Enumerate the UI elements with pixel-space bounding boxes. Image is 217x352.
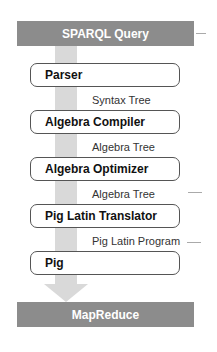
stage-parser: Parser	[30, 63, 180, 87]
stage-algebra-compiler: Algebra Compiler	[30, 110, 180, 134]
edge-label: Syntax Tree	[92, 94, 151, 106]
connector-line	[188, 192, 202, 193]
input-bar: SPARQL Query	[17, 21, 194, 46]
stage-pig-latin-translator: Pig Latin Translator	[30, 204, 180, 228]
input-label: SPARQL Query	[62, 27, 149, 41]
stage-pig: Pig	[30, 251, 180, 275]
connector-line	[196, 33, 206, 34]
edge-label: Algebra Tree	[92, 188, 155, 200]
connector-line	[187, 242, 201, 243]
flow-arrow-head-icon	[44, 284, 88, 302]
stage-label: Algebra Optimizer	[45, 162, 148, 176]
output-label: MapReduce	[72, 308, 139, 322]
stage-label: Parser	[45, 68, 82, 82]
stage-label: Pig Latin Translator	[45, 209, 157, 223]
edge-label: Pig Latin Program	[92, 235, 180, 247]
output-bar: MapReduce	[17, 302, 194, 327]
stage-label: Algebra Compiler	[45, 115, 145, 129]
stage-label: Pig	[45, 256, 64, 270]
stage-algebra-optimizer: Algebra Optimizer	[30, 157, 180, 181]
edge-label: Algebra Tree	[92, 141, 155, 153]
